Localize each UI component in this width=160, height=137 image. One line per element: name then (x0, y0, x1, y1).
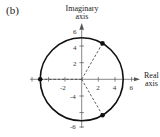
real-tick-label: 6 (130, 84, 134, 92)
point-lower (100, 113, 105, 118)
real-tick-label: 4 (113, 84, 117, 92)
complex-plane-diagram: -2 2 4 6 6 4 2 -4 -6 (0, 0, 160, 137)
imaginary-tick-label: 2 (73, 60, 77, 68)
point-upper (100, 41, 105, 46)
real-tick-label: 2 (96, 84, 100, 92)
imaginary-tick-label: -4 (70, 93, 76, 101)
real-axis-arrow-icon (134, 77, 140, 81)
imaginary-tick-label: -6 (70, 123, 76, 131)
real-tick-label: -2 (60, 84, 66, 92)
imaginary-tick-label: 6 (73, 28, 77, 36)
point-neg5 (38, 77, 43, 82)
imaginary-axis-arrow-icon (80, 23, 84, 29)
imaginary-tick-label: 4 (73, 44, 77, 52)
